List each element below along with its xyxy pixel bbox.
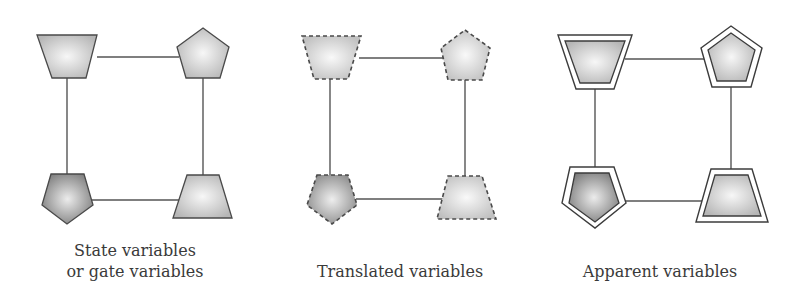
trapezoid-node-bottom-right	[437, 176, 496, 219]
trapezoid-node-top-left	[558, 35, 632, 89]
trapezoid-node-bottom-right	[173, 175, 232, 218]
caption-state-variables: State variables or gate variables	[60, 240, 210, 282]
caption-apparent-variables: Apparent variables	[570, 261, 750, 282]
caption-translated-variables: Translated variables	[305, 261, 495, 282]
caption-line-1: Translated variables	[305, 261, 495, 282]
pentagon-node-top-right	[441, 30, 490, 80]
connector-lines	[330, 58, 465, 199]
caption-line-1: State variables	[60, 240, 210, 261]
pentagon-node-bottom-left	[307, 175, 357, 224]
panel-translated-variables	[302, 30, 496, 224]
panel-state-variables	[37, 28, 232, 224]
pentagon-node-bottom-left	[562, 167, 626, 228]
panel-apparent-variables	[558, 26, 768, 228]
trapezoid-node-top-left	[37, 35, 97, 78]
pentagon-node-top-right	[701, 26, 762, 87]
caption-line-2: or gate variables	[60, 261, 210, 282]
trapezoid-node-bottom-right	[696, 169, 768, 222]
caption-line-1: Apparent variables	[570, 261, 750, 282]
pentagon-node-bottom-left	[42, 174, 93, 224]
trapezoid-node-top-left	[302, 36, 361, 79]
connector-lines	[67, 57, 203, 200]
pentagon-node-top-right	[177, 28, 229, 78]
